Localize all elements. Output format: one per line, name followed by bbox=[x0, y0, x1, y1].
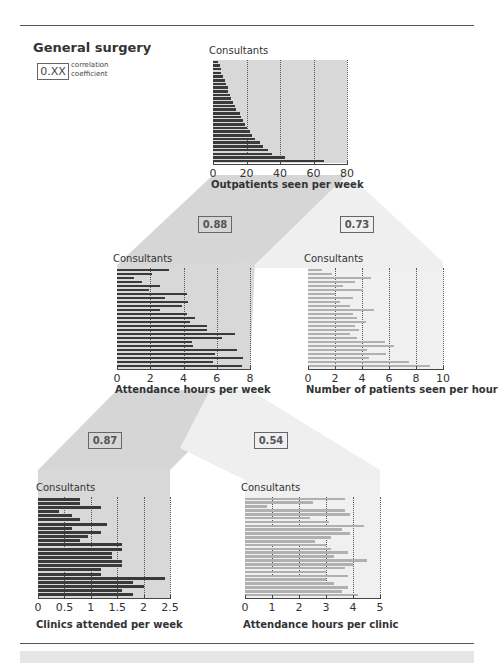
bar bbox=[213, 75, 223, 78]
x-tick-label: 1 bbox=[87, 601, 94, 614]
consultants-label: Consultants bbox=[304, 253, 363, 264]
bar bbox=[117, 301, 188, 304]
bar bbox=[117, 321, 190, 324]
bar bbox=[245, 521, 329, 524]
bar bbox=[38, 527, 72, 530]
bar bbox=[213, 123, 245, 126]
legend-text-line1: correlation bbox=[71, 61, 131, 70]
x-tick bbox=[416, 366, 417, 370]
bar bbox=[308, 269, 322, 272]
bar bbox=[213, 138, 255, 141]
bar bbox=[213, 90, 228, 93]
bar bbox=[213, 119, 243, 122]
x-tick bbox=[308, 366, 309, 370]
bar bbox=[245, 525, 364, 528]
bar bbox=[245, 528, 342, 531]
x-tick bbox=[117, 595, 118, 599]
bar bbox=[117, 329, 207, 332]
bar bbox=[245, 517, 310, 520]
bar bbox=[213, 83, 226, 86]
bar bbox=[38, 518, 80, 521]
bar bbox=[308, 329, 359, 332]
bar bbox=[117, 285, 160, 288]
x-tick bbox=[150, 366, 151, 370]
consultants-label: Consultants bbox=[241, 482, 300, 493]
bar bbox=[308, 361, 409, 364]
bar bbox=[245, 548, 331, 551]
x-axis-label: Clinics attended per week bbox=[36, 619, 183, 630]
bar bbox=[213, 64, 220, 67]
bar bbox=[38, 593, 133, 596]
x-tick bbox=[299, 595, 300, 599]
bar bbox=[117, 269, 169, 272]
x-tick bbox=[335, 366, 336, 370]
bar bbox=[213, 145, 263, 148]
bar bbox=[38, 556, 112, 559]
x-tick bbox=[184, 366, 185, 370]
gridline bbox=[347, 60, 348, 163]
bar bbox=[245, 582, 334, 585]
x-tick bbox=[353, 595, 354, 599]
bar bbox=[38, 573, 101, 576]
footer-band bbox=[20, 651, 474, 663]
bar bbox=[308, 353, 386, 356]
bar bbox=[117, 325, 207, 328]
plot-area: 0246810 bbox=[308, 268, 443, 368]
bar bbox=[117, 365, 242, 368]
bar bbox=[213, 134, 252, 137]
x-tick bbox=[247, 161, 248, 165]
bar bbox=[245, 513, 350, 516]
bar bbox=[308, 337, 357, 340]
bar bbox=[38, 564, 122, 567]
bar bbox=[38, 539, 80, 542]
bar bbox=[245, 509, 345, 512]
bar bbox=[38, 560, 122, 563]
bar bbox=[117, 309, 160, 312]
consultants-label: Consultants bbox=[209, 45, 268, 56]
bar bbox=[245, 586, 348, 589]
bar bbox=[308, 297, 353, 300]
bar bbox=[117, 277, 134, 280]
bar bbox=[245, 536, 331, 539]
bar bbox=[38, 506, 101, 509]
legend-text-line2: coefficient bbox=[71, 70, 131, 79]
bar bbox=[308, 357, 369, 360]
bar bbox=[117, 337, 222, 340]
bar bbox=[245, 571, 326, 574]
bar bbox=[308, 281, 355, 284]
correlation-badge: 0.54 bbox=[254, 432, 288, 449]
bar bbox=[213, 112, 240, 115]
bar bbox=[38, 585, 144, 588]
bar bbox=[213, 130, 250, 133]
bar bbox=[38, 589, 122, 592]
gridline bbox=[280, 60, 281, 163]
plot-area: 012345 bbox=[245, 497, 380, 597]
bar bbox=[38, 514, 72, 517]
bar bbox=[245, 544, 326, 547]
gridline bbox=[416, 268, 417, 368]
bar bbox=[308, 289, 363, 292]
bar bbox=[38, 531, 101, 534]
bar bbox=[245, 532, 350, 535]
x-tick bbox=[272, 595, 273, 599]
x-tick bbox=[217, 366, 218, 370]
bar bbox=[213, 94, 230, 97]
bar bbox=[308, 321, 366, 324]
x-tick-label: 4 bbox=[350, 601, 357, 614]
legend-text: correlation coefficient bbox=[71, 61, 131, 79]
gridline bbox=[250, 268, 251, 368]
gridline bbox=[314, 60, 315, 163]
bar bbox=[117, 341, 192, 344]
x-tick bbox=[389, 366, 390, 370]
bar bbox=[308, 301, 340, 304]
x-tick-label: 0 bbox=[242, 601, 249, 614]
bar bbox=[308, 309, 374, 312]
gridline bbox=[217, 268, 218, 368]
bar bbox=[213, 61, 218, 64]
bar bbox=[213, 105, 235, 108]
bar bbox=[38, 535, 88, 538]
x-tick-label: 1 bbox=[269, 601, 276, 614]
bottom-rule bbox=[20, 643, 474, 644]
x-tick bbox=[362, 366, 363, 370]
x-axis-label: Outpatients seen per week bbox=[211, 179, 364, 190]
